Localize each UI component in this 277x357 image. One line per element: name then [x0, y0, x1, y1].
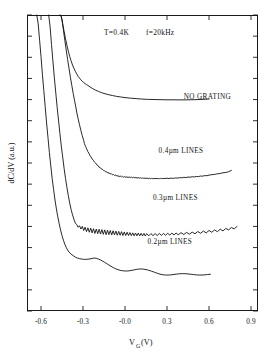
figure-container: -0.6-0.3-0.00.30.60.9 T=0.4K f=20kHz NO … [0, 0, 277, 357]
x-tick-label-2: -0.0 [119, 318, 131, 326]
chart-svg: -0.6-0.3-0.00.30.60.9 T=0.4K f=20kHz NO … [0, 0, 277, 357]
plot-header-frequency: f=20kHz [146, 28, 175, 37]
plot-header-temperature: T=0.4K [104, 28, 129, 37]
x-tick-label-1: -0.3 [77, 318, 89, 326]
y-axis-title: dC/dV (a.u.) [7, 142, 16, 183]
x-axis-title-main: V [129, 338, 135, 347]
x-tick-label-5: 0.9 [246, 318, 256, 326]
x-tick-label-0: -0.6 [35, 318, 47, 326]
x-axis-title-unit: (V) [141, 338, 153, 347]
annotation-3: 0.2µm LINES [147, 238, 192, 246]
x-tick-label-4: 0.6 [204, 318, 214, 326]
annotation-1: 0.4µm LINES [159, 147, 204, 155]
annotation-2: 0.3µm LINES [153, 194, 198, 202]
x-tick-label-3: 0.3 [162, 318, 172, 326]
annotation-0: NO GRATING [184, 93, 231, 101]
figure-background [0, 0, 277, 357]
